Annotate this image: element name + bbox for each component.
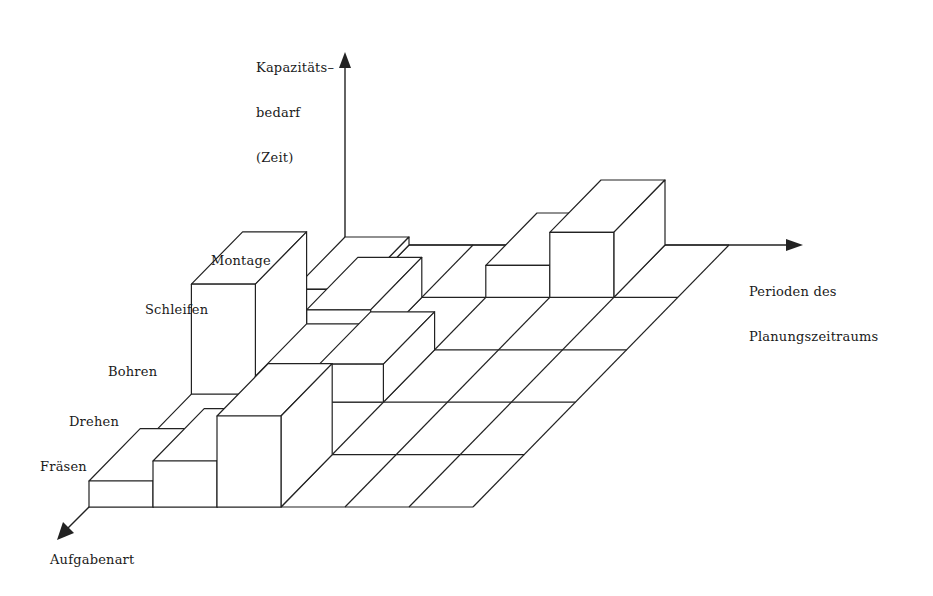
block-front-face: [217, 416, 281, 507]
vertical-axis-title-line-2: bedarf: [256, 105, 334, 120]
block-front-face: [89, 481, 153, 507]
vertical-axis-title: Kapazitäts– bedarf (Zeit): [256, 30, 334, 180]
depth-axis-title: Aufgabenart: [50, 552, 134, 567]
capacity-block: [550, 180, 665, 297]
capacity-blocks: [89, 180, 665, 507]
depth-axis-line: [66, 507, 89, 530]
vertical-axis-arrow-icon: [339, 52, 351, 68]
horizontal-axis-arrow-icon: [786, 239, 803, 251]
row-label-drehen: Drehen: [69, 414, 119, 429]
vertical-axis-title-line-1: Kapazitäts–: [256, 60, 334, 75]
horizontal-axis-title-line-1: Perioden des: [749, 284, 878, 299]
block-front-face: [550, 232, 614, 297]
horizontal-axis-title: Perioden des Planungszeitraums: [749, 254, 878, 359]
row-label-bohren: Bohren: [108, 364, 157, 379]
block-front-face: [153, 461, 217, 507]
horizontal-axis-title-line-2: Planungszeitraums: [749, 329, 878, 344]
block-front-face: [486, 265, 550, 297]
row-label-montage: Montage: [211, 253, 271, 268]
vertical-axis-title-line-3: (Zeit): [256, 150, 334, 165]
row-label-schleifen: Schleifen: [145, 302, 208, 317]
row-label-fraesen: Fräsen: [40, 459, 87, 474]
